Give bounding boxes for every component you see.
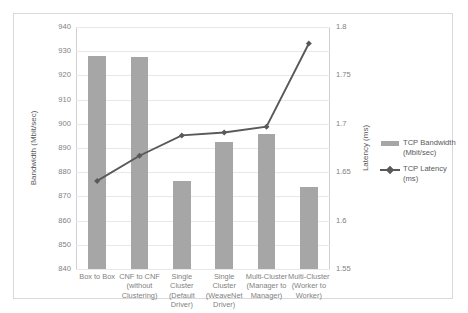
legend-label-bandwidth: TCP Bandwidth (Mbit/sec)	[403, 138, 456, 157]
legend-item-latency: TCP Latency (ms)	[380, 164, 468, 183]
gridline	[76, 124, 330, 125]
bar	[300, 187, 318, 269]
y-axis-right-tick-label: 1.6	[336, 217, 347, 225]
y-axis-left-tick-label: 930	[58, 47, 71, 55]
chart-legend: TCP Bandwidth (Mbit/sec) TCP Latency (ms…	[380, 138, 468, 190]
x-axis-tick-label: Single Cluster (Default Driver)	[161, 272, 203, 310]
gridline	[76, 172, 330, 173]
bar	[131, 57, 149, 269]
gridline	[76, 100, 330, 101]
y-axis-left-tick-label: 880	[58, 168, 71, 176]
gridline	[76, 245, 330, 246]
y-axis-left-tick-label: 870	[58, 192, 71, 200]
y-axis-left-tick-label: 850	[58, 241, 71, 249]
y-axis-left-tick-label: 860	[58, 217, 71, 225]
y-axis-left-tick-label: 910	[58, 96, 71, 104]
bar	[88, 56, 106, 269]
x-axis-tick-label: Multi-Cluster (Worker to Worker)	[288, 272, 330, 300]
x-axis-category-labels: Box to BoxCNF to CNF (without Clustering…	[76, 272, 330, 313]
line-marker	[221, 130, 227, 136]
gridline	[76, 75, 330, 76]
line-path	[97, 43, 309, 180]
legend-item-bandwidth: TCP Bandwidth (Mbit/sec)	[380, 138, 468, 157]
chart-container: Bandwidth (Mbit/sec) Latency (ms) 940930…	[13, 13, 453, 299]
gridline	[76, 269, 330, 270]
gridline	[76, 196, 330, 197]
x-axis-tick-label: Multi-Cluster (Manager to Manager)	[245, 272, 287, 300]
line-marker	[306, 40, 312, 46]
gridline	[76, 27, 330, 28]
y-axis-right-tick-label: 1.8	[336, 23, 347, 31]
gridline	[76, 51, 330, 52]
x-axis-tick-label: CNF to CNF (without Clustering)	[118, 272, 160, 300]
x-axis-tick-label: Single Cluster (WeaveNet Driver)	[203, 272, 245, 310]
y-axis-left-tick-label: 900	[58, 120, 71, 128]
gridline	[76, 221, 330, 222]
y-axis-right-title: Latency (ms)	[362, 125, 370, 171]
y-axis-left-tick-label: 920	[58, 71, 71, 79]
line-marker	[179, 132, 185, 138]
gridline	[76, 148, 330, 149]
y-axis-left-title: Bandwidth (Mbit/sec)	[30, 111, 38, 186]
y-axis-left-tick-label: 840	[58, 265, 71, 273]
y-axis-right-tick-label: 1.7	[336, 120, 347, 128]
plot-area: 940930920910900890880870860850840 1.81.7…	[76, 27, 330, 269]
x-axis-tick-label: Box to Box	[76, 272, 118, 281]
legend-line-diamond-icon	[380, 164, 400, 175]
bar	[173, 181, 191, 269]
legend-label-latency: TCP Latency (ms)	[403, 164, 447, 183]
y-axis-right-tick-label: 1.75	[336, 71, 351, 79]
y-axis-right-tick-label: 1.65	[336, 168, 351, 176]
y-axis-right-tick-label: 1.55	[336, 265, 351, 273]
y-axis-left-tick-label: 940	[58, 23, 71, 31]
legend-swatch-icon	[380, 138, 400, 149]
bar	[215, 142, 233, 269]
bar	[258, 134, 276, 269]
y-axis-left-tick-label: 890	[58, 144, 71, 152]
